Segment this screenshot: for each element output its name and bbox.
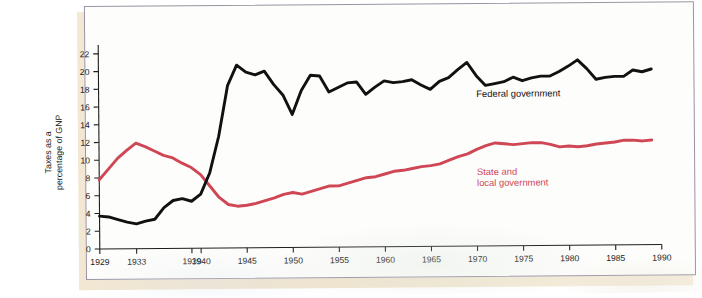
y-tick-label: 4	[86, 209, 91, 219]
y-tick-label: 10	[80, 156, 90, 166]
x-tick-label: 1955	[330, 255, 349, 265]
y-axis-title-line1: Taxes as a	[43, 131, 53, 173]
x-tick-label: 1970	[468, 254, 487, 264]
x-tick-label: 1950	[284, 255, 303, 265]
x-tick-label: 1940	[192, 256, 211, 266]
y-tick-label: 6	[86, 191, 91, 201]
x-tick-label: 1985	[606, 253, 625, 263]
series-line-federal	[98, 59, 652, 224]
y-tick-label: 2	[86, 226, 91, 236]
legend-label-state-line1: State and	[477, 166, 517, 177]
x-tick-label: 1975	[514, 254, 533, 264]
y-axis-title-line2: percentage of GNP	[54, 114, 65, 190]
x-tick-label: 1965	[422, 254, 441, 264]
y-axis-line	[98, 45, 100, 249]
y-tick-label: 18	[80, 85, 90, 95]
line-chart-svg: 0246810121416182022 19291933193919401945…	[0, 0, 702, 298]
y-axis-tick-labels: 0246810121416182022	[80, 49, 91, 254]
y-tick-label: 16	[80, 102, 90, 112]
y-tick-label: 14	[80, 120, 90, 130]
x-axis-tick-labels: 1929193319391940194519501955196019651970…	[90, 252, 671, 267]
chart-area: 0246810121416182022 19291933193919401945…	[0, 0, 702, 298]
y-tick-label: 12	[80, 138, 90, 148]
legend-label-state-line2: local government	[477, 176, 549, 188]
x-tick-label: 1945	[238, 256, 257, 266]
x-tick-label: 1933	[127, 257, 146, 267]
y-tick-label: 20	[80, 67, 90, 77]
x-tick-label: 1990	[652, 252, 671, 262]
y-tick-label: 22	[80, 49, 90, 59]
y-tick-label: 8	[85, 173, 90, 183]
x-tick-label: 1929	[90, 257, 109, 267]
scan-block: 0246810121416182022 19291933193919401945…	[0, 0, 702, 298]
y-tick-label: 0	[86, 244, 91, 254]
axes	[98, 41, 662, 249]
y-axis-title: Taxes as a percentage of GNP	[43, 114, 65, 190]
legend-label-federal: Federal government	[476, 87, 560, 99]
x-tick-label: 1960	[376, 255, 395, 265]
series-line-state-local	[99, 139, 652, 207]
x-axis-line	[100, 245, 662, 249]
x-tick-label: 1980	[560, 253, 579, 263]
